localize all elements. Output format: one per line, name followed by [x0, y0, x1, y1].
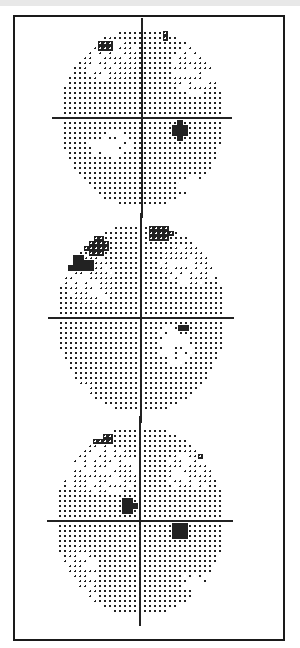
visual-field-plot-3	[45, 416, 235, 626]
visual-field-plot-1	[50, 18, 234, 218]
top-strip	[0, 0, 300, 6]
horizontal-meridian	[47, 520, 233, 522]
visual-field-plot-2	[46, 213, 236, 423]
horizontal-meridian	[52, 117, 232, 119]
horizontal-meridian	[48, 317, 234, 319]
